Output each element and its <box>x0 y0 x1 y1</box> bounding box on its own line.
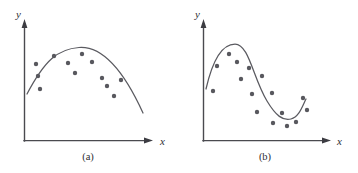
data-point <box>239 77 243 81</box>
y-axis-arrow-icon-b <box>201 19 207 28</box>
x-axis-arrow-icon-a <box>144 138 153 144</box>
panel-caption-a: (a) <box>58 152 118 163</box>
y-axis-label-a: y <box>16 9 21 20</box>
data-point <box>294 120 298 124</box>
data-point <box>90 60 94 64</box>
fit-curve-a <box>27 47 143 113</box>
data-point <box>66 61 70 65</box>
data-point <box>215 64 219 68</box>
data-point <box>112 94 116 98</box>
data-point <box>52 54 56 58</box>
data-point <box>270 91 274 95</box>
data-point <box>247 66 251 70</box>
panel-b-plot <box>179 0 358 173</box>
data-point <box>80 52 84 56</box>
data-point <box>235 60 239 64</box>
y-axis-arrow-icon-a <box>22 19 28 28</box>
x-axis-label-a: x <box>160 136 165 147</box>
data-point <box>100 76 104 80</box>
data-point <box>250 92 254 96</box>
data-point <box>255 110 259 114</box>
data-point <box>211 89 215 93</box>
panel-caption-b: (b) <box>235 152 295 163</box>
panel-a: y x (a) <box>0 0 179 173</box>
data-point <box>105 84 109 88</box>
data-point <box>260 74 264 78</box>
panel-a-plot <box>0 0 179 173</box>
panel-b: y x (b) <box>179 0 358 173</box>
data-point <box>38 87 42 91</box>
data-point <box>73 71 77 75</box>
figure-container: y x (a) <box>0 0 358 173</box>
x-axis-arrow-icon-b <box>322 138 331 144</box>
x-axis-label-b: x <box>337 136 342 147</box>
data-point <box>36 74 40 78</box>
data-point <box>271 121 275 125</box>
data-point <box>34 62 38 66</box>
fit-curve-b <box>206 44 306 119</box>
data-point <box>301 96 305 100</box>
data-point <box>305 108 309 112</box>
data-point <box>280 111 284 115</box>
data-point <box>285 124 289 128</box>
data-point <box>227 52 231 56</box>
data-point <box>119 78 123 82</box>
y-axis-label-b: y <box>195 9 200 20</box>
